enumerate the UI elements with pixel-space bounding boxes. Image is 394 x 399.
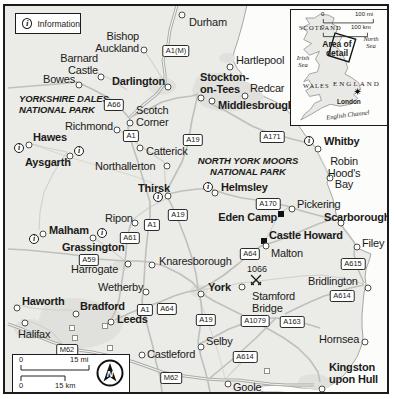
town-marker	[239, 284, 246, 291]
town-marker	[114, 127, 121, 134]
town-label: Scotch Corner	[136, 105, 168, 128]
town-label: Knaresborough	[159, 256, 232, 268]
town-marker	[139, 352, 146, 359]
road-badge: A1079	[241, 315, 270, 327]
town-label: Aysgarth	[25, 157, 71, 169]
motorway-junction-marker	[264, 368, 270, 374]
town-marker	[225, 381, 232, 388]
town-label: Bowes	[43, 74, 75, 86]
inset-scale-km-label: 100 km	[351, 24, 371, 31]
town-label: Ripon	[105, 213, 133, 225]
town-label: Middlesbrough	[218, 100, 294, 112]
town-label: Filey	[362, 238, 384, 250]
inset-label-area-of-detail: Area of detail	[322, 40, 351, 58]
town-label: Castleford	[147, 349, 195, 361]
road-badge: A163	[280, 316, 305, 328]
town-label: Goole	[233, 382, 261, 394]
town-marker	[263, 243, 270, 250]
scale-box: N 0 15 mi 0 15 km	[12, 354, 130, 393]
town-label: Richmond	[65, 121, 113, 133]
town-label: Redcar	[250, 83, 284, 95]
info-legend: Information	[15, 13, 81, 34]
town-marker	[108, 319, 115, 326]
inset-label-england: ENGLAND	[333, 81, 381, 88]
road-badge: A614	[330, 290, 355, 302]
town-marker	[40, 231, 47, 238]
town-label: Durham	[189, 17, 227, 29]
road-badge: A61	[120, 232, 140, 244]
inset-scale-mi-zero: 0	[321, 11, 324, 18]
town-label: Scarborough	[324, 212, 389, 224]
town-marker	[164, 163, 171, 170]
town-marker	[127, 120, 134, 127]
road-badge: A19	[183, 134, 203, 146]
town-label: Bradford	[80, 301, 125, 313]
battle-site-icon	[249, 273, 263, 287]
town-marker	[14, 305, 21, 312]
info-icon	[74, 146, 84, 156]
national-park-label: NORTH YORK MOORS NATIONAL PARK	[198, 155, 298, 177]
road-badge: A1	[144, 219, 160, 231]
town-marker	[209, 98, 216, 105]
town-label: Whitby	[324, 136, 359, 148]
town-marker	[315, 146, 322, 153]
town-marker	[149, 262, 156, 269]
road-badge: A1	[123, 130, 139, 142]
road-badge: A19	[168, 209, 188, 221]
town-label: Hawes	[33, 132, 67, 144]
inset-scale-km-zero: 0	[321, 24, 324, 31]
map-frame: DurhamBishop AucklandHartlepoolBarnard C…	[3, 4, 389, 394]
motorway-junction-marker	[102, 323, 108, 329]
town-label: Haworth	[22, 296, 65, 308]
information-label: Information	[37, 19, 80, 29]
info-icon	[203, 182, 213, 192]
road-badge: A171	[260, 131, 285, 143]
town-label: Bridlington	[308, 276, 358, 288]
town-marker	[354, 244, 361, 251]
town-marker	[198, 95, 205, 102]
town-label: Stockton- on-Tees	[200, 72, 249, 95]
compass-icon: N	[98, 361, 123, 386]
town-marker	[227, 64, 234, 71]
town-marker	[198, 291, 205, 298]
town-label: Malham	[49, 225, 89, 237]
town-label: Kingston upon Hull	[329, 362, 378, 385]
town-marker	[22, 320, 29, 327]
town-label: Selby	[206, 336, 233, 348]
town-marker	[143, 289, 150, 296]
motorway-junction-marker	[69, 325, 75, 331]
inset-label-irish-sea: Irish Sea	[297, 54, 309, 68]
town-marker	[26, 142, 33, 149]
town-marker	[165, 84, 172, 91]
site-marker	[278, 211, 284, 217]
town-label: Northallerton	[95, 161, 155, 173]
town-marker	[141, 47, 148, 54]
map-page: DurhamBishop AucklandHartlepoolBarnard C…	[0, 0, 394, 399]
info-icon	[29, 234, 39, 244]
town-label: Helmsley	[221, 182, 268, 194]
inset-label-wales: WALES	[303, 82, 330, 89]
town-label: Darlington	[112, 76, 165, 88]
motorway-junction-marker	[72, 335, 78, 341]
town-label: Eden Camp	[218, 212, 277, 224]
scale-km-zero: 0	[19, 382, 23, 390]
road-badge: A66	[104, 99, 124, 111]
town-label: Catterick	[146, 146, 188, 158]
inset-label-london: London	[337, 98, 361, 105]
town-label: Castle Howard	[269, 230, 343, 242]
road-badge: A170	[256, 198, 281, 210]
town-marker	[212, 190, 219, 197]
road-badge: A64	[157, 303, 177, 315]
scale-km-label: 15 km	[55, 382, 75, 390]
motorway-junction-marker	[107, 345, 113, 351]
town-marker	[76, 82, 83, 89]
info-icon	[97, 228, 107, 238]
town-label: Hartlepool	[236, 55, 284, 67]
inset-scale-mi-label: 100 mi	[355, 11, 373, 18]
road-badge: A615	[341, 258, 366, 270]
town-label: York	[208, 282, 231, 294]
town-marker	[73, 311, 80, 318]
town-label: Malton	[271, 248, 303, 260]
town-marker	[98, 74, 105, 81]
inset-map: SCOTLAND WALES ENGLAND London North Sea …	[290, 9, 389, 126]
